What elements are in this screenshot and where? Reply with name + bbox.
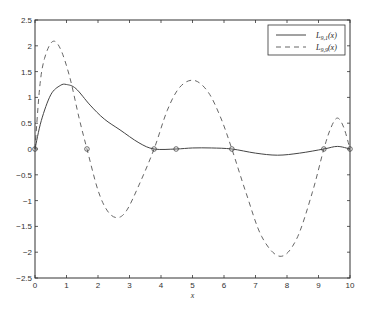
plot-frame	[35, 20, 350, 278]
x-tick-label: 3	[127, 281, 132, 290]
y-tick-label: 2.5	[21, 16, 33, 25]
x-tick-label: 10	[346, 281, 355, 290]
y-tick-label: 0	[28, 145, 33, 154]
x-tick-label: 8	[285, 281, 290, 290]
series-line-1	[35, 84, 350, 155]
x-tick-label: 1	[64, 281, 69, 290]
x-tick-label: 6	[222, 281, 227, 290]
y-tick-label: −2.5	[16, 274, 32, 283]
y-tick-label: −1.5	[16, 222, 32, 231]
x-axis-label: x	[190, 291, 195, 300]
x-tick-label: 0	[33, 281, 38, 290]
y-tick-label: 1.5	[21, 68, 33, 77]
y-tick-label: −0.5	[16, 171, 32, 180]
series-line-2	[35, 41, 350, 256]
y-tick-label: 1	[28, 93, 33, 102]
y-tick-label: −2	[23, 248, 33, 257]
x-tick-label: 7	[253, 281, 258, 290]
y-tick-label: −1	[23, 197, 33, 206]
chart: 012345678910−2.5−2−1.5−1−0.500.511.522.5…	[0, 0, 368, 309]
y-tick-label: 2	[28, 42, 33, 51]
y-tick-label: 0.5	[21, 119, 33, 128]
x-tick-label: 2	[96, 281, 101, 290]
x-tick-label: 5	[190, 281, 195, 290]
x-tick-label: 9	[316, 281, 321, 290]
legend: L9,1(x)L9,9(x)	[268, 25, 345, 55]
x-tick-label: 4	[159, 281, 164, 290]
